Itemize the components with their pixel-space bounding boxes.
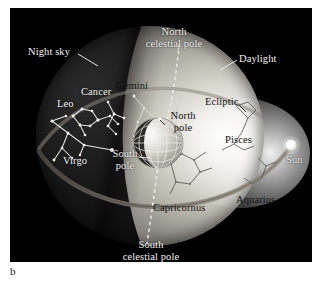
label-south-celestial-pole-line2: celestial pole [106, 251, 196, 263]
label-south-celestial-pole: South celestial pole [106, 239, 196, 262]
label-sun: Sun [286, 154, 303, 166]
label-pisces: Pisces [225, 134, 252, 146]
label-south-pole: South pole [105, 148, 145, 171]
label-south-pole-line1: South [105, 148, 145, 160]
label-night-sky: Night sky [28, 46, 70, 58]
label-ecliptic: Ecliptic [205, 96, 238, 108]
label-south-pole-line2: pole [105, 160, 145, 172]
label-south-celestial-pole-line1: South [106, 239, 196, 251]
figure-caption-letter: b [10, 266, 16, 277]
label-north-celestial-pole: North celestial pole [136, 26, 212, 49]
label-leo: Leo [57, 98, 74, 110]
label-north-pole-line2: pole [162, 122, 204, 134]
label-north-celestial-pole-line2: celestial pole [136, 38, 212, 50]
label-north-pole-line1: North [162, 110, 204, 122]
figure-container: Night sky North celestial pole Daylight … [0, 0, 329, 286]
sun-marker [282, 136, 300, 154]
label-virgo: Virgo [63, 155, 87, 167]
label-gemini: Gemini [116, 80, 148, 92]
leader-daylight [220, 60, 237, 70]
label-north-pole: North pole [162, 110, 204, 133]
leader-night-sky [78, 54, 98, 66]
label-cancer: Cancer [81, 86, 111, 98]
celestial-sphere-figure: Night sky North celestial pole Daylight … [10, 8, 312, 262]
label-capricornus: Capricornus [153, 202, 205, 214]
label-north-celestial-pole-line1: North [136, 26, 212, 38]
constellation-cancer [108, 102, 124, 134]
label-daylight: Daylight [239, 53, 277, 65]
label-aquarius: Aquarius [236, 194, 275, 206]
